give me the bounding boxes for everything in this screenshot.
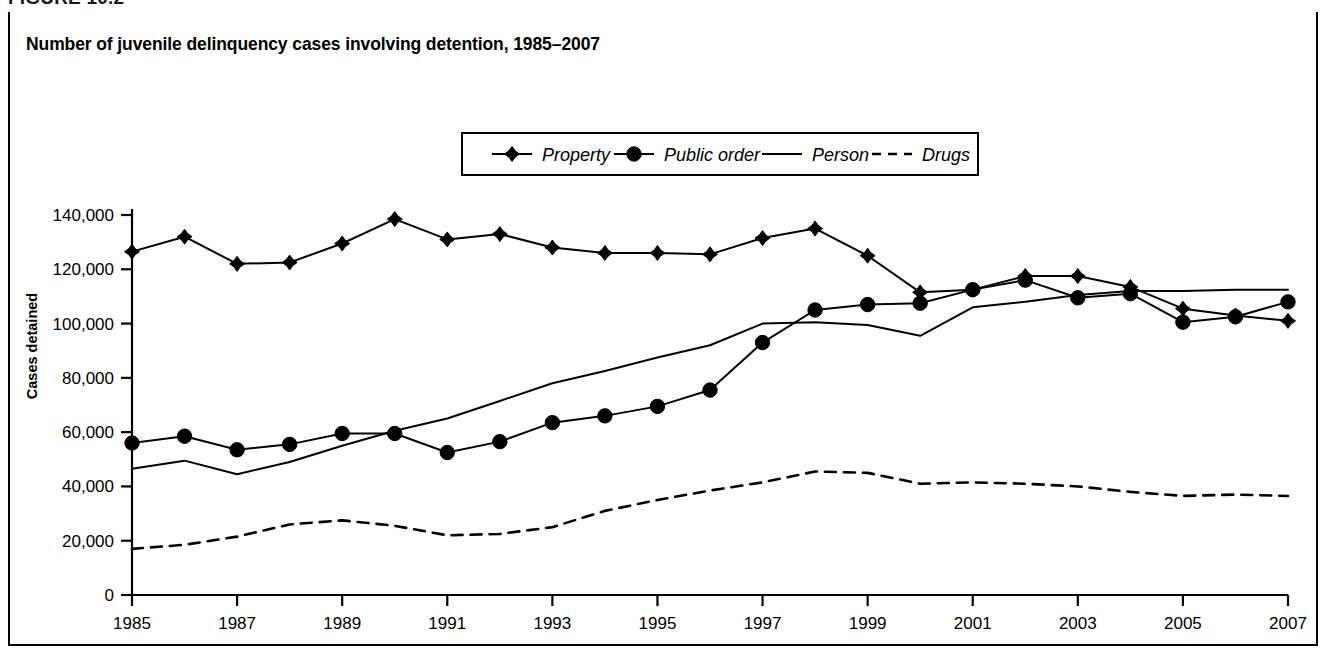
data-point-property [440, 232, 455, 247]
data-point-property [387, 212, 402, 227]
data-point-public-order [1123, 287, 1137, 301]
series-line-public-order [132, 280, 1288, 452]
x-tick-label: 1995 [639, 614, 677, 633]
y-tick-label: 40,000 [62, 477, 114, 496]
data-point-property [1281, 313, 1296, 328]
y-tick-label: 0 [105, 586, 114, 605]
data-point-property [125, 244, 140, 259]
line-chart: 020,00040,00060,00080,000100,000120,0001… [0, 0, 1326, 649]
x-tick-label: 1997 [744, 614, 782, 633]
data-point-property [492, 227, 507, 242]
figure-root: FIGURE 10.2 Number of juvenile delinquen… [0, 0, 1326, 649]
legend-label: Person [812, 145, 869, 165]
data-point-public-order [282, 437, 296, 451]
data-point-property [230, 256, 245, 271]
legend-label: Property [542, 145, 611, 165]
data-point-property [335, 236, 350, 251]
y-tick-label: 140,000 [53, 206, 114, 225]
data-point-property [177, 229, 192, 244]
y-tick-label: 20,000 [62, 532, 114, 551]
data-point-public-order [1071, 291, 1085, 305]
data-point-property [597, 246, 612, 261]
y-tick-label: 60,000 [62, 423, 114, 442]
chart-legend[interactable]: PropertyPublic orderPersonDrugs [462, 133, 978, 175]
x-tick-label: 1999 [849, 614, 887, 633]
data-point-public-order [335, 426, 349, 440]
data-point-public-order [703, 383, 717, 397]
data-point-property [545, 240, 560, 255]
y-tick-label: 80,000 [62, 369, 114, 388]
data-point-public-order [177, 429, 191, 443]
series-line-drugs [132, 472, 1288, 549]
data-point-public-order [650, 399, 664, 413]
data-point-public-order [1018, 273, 1032, 287]
data-point-public-order [598, 409, 612, 423]
x-tick-label: 1987 [218, 614, 256, 633]
data-point-property [808, 221, 823, 236]
data-point-public-order [755, 335, 769, 349]
chart-axes: 020,00040,00060,00080,000100,000120,0001… [53, 206, 1307, 633]
data-point-property [703, 247, 718, 262]
data-point-public-order [545, 415, 559, 429]
data-point-public-order [1176, 315, 1190, 329]
data-point-public-order [808, 303, 822, 317]
legend-label: Public order [664, 145, 761, 165]
data-point-property [650, 246, 665, 261]
x-tick-label: 1993 [533, 614, 571, 633]
data-point-public-order [125, 436, 139, 450]
legend-label: Drugs [922, 145, 970, 165]
data-point-property [1175, 301, 1190, 316]
data-point-public-order [388, 426, 402, 440]
x-tick-label: 1989 [323, 614, 361, 633]
data-point-public-order [440, 445, 454, 459]
data-point-public-order [1228, 310, 1242, 324]
series-line-person [132, 290, 1288, 475]
chart-series [125, 212, 1296, 549]
data-point-public-order [230, 443, 244, 457]
y-tick-label: 100,000 [53, 315, 114, 334]
y-tick-label: 120,000 [53, 260, 114, 279]
x-tick-label: 2007 [1269, 614, 1307, 633]
data-point-public-order [913, 296, 927, 310]
legend-marker-circle-icon [627, 147, 641, 161]
x-tick-label: 2001 [954, 614, 992, 633]
x-tick-label: 1991 [428, 614, 466, 633]
data-point-property [755, 231, 770, 246]
data-point-public-order [493, 434, 507, 448]
data-point-public-order [860, 297, 874, 311]
x-tick-label: 2003 [1059, 614, 1097, 633]
data-point-property [860, 248, 875, 263]
x-tick-label: 1985 [113, 614, 151, 633]
data-point-property [282, 255, 297, 270]
series-line-property [132, 219, 1288, 321]
data-point-public-order [1281, 295, 1295, 309]
data-point-public-order [966, 282, 980, 296]
data-point-property [1070, 269, 1085, 284]
x-tick-label: 2005 [1164, 614, 1202, 633]
